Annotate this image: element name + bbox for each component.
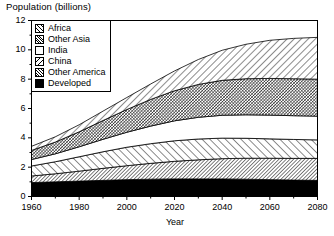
chart-legend: AfricaOther AsiaIndiaChinaOther AmericaD… [31,20,111,92]
x-tick-label: 1960 [14,202,50,212]
developed-swatch [35,79,44,88]
legend-item-developed[interactable]: Developed [35,78,106,89]
x-tick-label: 1980 [61,202,97,212]
legend-item-label: Other Asia [48,35,90,44]
legend-item-label: Developed [48,79,91,88]
legend-item-india[interactable]: India [35,45,106,56]
legend-item-label: Africa [48,24,71,33]
y-tick-label: 0 [6,191,26,201]
other-asia-swatch [35,35,44,44]
x-tick-label: 2020 [157,202,193,212]
x-tick-label: 2060 [252,202,288,212]
y-tick-label: 8 [6,74,26,84]
other-america-swatch [35,68,44,77]
y-tick-label: 12 [6,15,26,25]
chart-figure: Population (billions) [0,0,334,236]
y-tick-label: 6 [6,103,26,113]
y-tick-label: 10 [6,44,26,54]
x-tick-label: 2080 [300,202,334,212]
x-axis-title: Year [0,217,334,227]
legend-item-china[interactable]: China [35,56,106,67]
legend-item-label: Other America [48,68,106,77]
india-swatch [35,46,44,55]
china-swatch [35,57,44,66]
y-tick-label: 4 [6,132,26,142]
x-tick-label: 2040 [204,202,240,212]
africa-swatch [35,24,44,33]
legend-item-other-america[interactable]: Other America [35,67,106,78]
legend-item-label: China [48,57,72,66]
legend-item-africa[interactable]: Africa [35,23,106,34]
x-axis-title-text: Year [166,217,184,227]
legend-item-label: India [48,46,68,55]
x-tick-label: 2000 [109,202,145,212]
y-tick-label: 2 [6,162,26,172]
legend-item-other-asia[interactable]: Other Asia [35,34,106,45]
